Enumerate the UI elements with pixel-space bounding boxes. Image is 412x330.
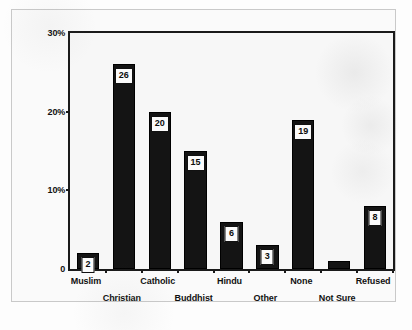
bar-value-label: 2 <box>81 257 94 273</box>
bar-slot: 2 <box>70 33 106 269</box>
x-axis-tick-mark <box>320 269 322 273</box>
x-axis-category-label: Muslim <box>71 276 101 286</box>
bar[interactable]: 2 <box>77 253 99 269</box>
x-axis-tick-mark <box>105 269 107 273</box>
x-axis-category-label: Christian <box>103 293 141 303</box>
bar-slot: 8 <box>357 33 393 269</box>
x-axis-tick-mark <box>213 269 215 273</box>
bar-slot <box>321 33 357 269</box>
bar-slot: 19 <box>285 33 321 269</box>
x-axis-category-label: Not Sure <box>319 293 356 303</box>
bar-value-label: 8 <box>369 210 382 226</box>
x-axis-tick-mark <box>356 269 358 273</box>
x-axis-category-label: Catholic <box>140 276 175 286</box>
figure-outer-frame: 010%20%30%226201563198 MuslimChristianCa… <box>11 9 396 302</box>
x-axis-category-label: Hindu <box>217 276 242 286</box>
x-axis-tick-mark <box>177 269 179 273</box>
bar-value-label: 20 <box>151 116 169 132</box>
bar-slot: 15 <box>178 33 214 269</box>
y-axis-tick-label: 10% <box>48 185 65 195</box>
bar[interactable]: 6 <box>220 222 242 269</box>
bar-value-label: 3 <box>261 249 274 265</box>
y-axis-tick-label: 0 <box>60 264 65 274</box>
bar-slot: 26 <box>106 33 142 269</box>
x-axis-category-label: Refused <box>356 276 391 286</box>
x-axis-tick-mark <box>141 269 143 273</box>
bar[interactable]: 15 <box>184 151 206 269</box>
y-axis-tick-label: 30% <box>48 28 65 38</box>
bar-value-label: 26 <box>115 68 133 84</box>
bar-slot: 6 <box>214 33 250 269</box>
x-axis-tick-mark <box>392 269 394 273</box>
chart-page: 010%20%30%226201563198 MuslimChristianCa… <box>0 0 412 330</box>
bar-slot: 20 <box>142 33 178 269</box>
bar[interactable]: 3 <box>256 245 278 269</box>
plot-area: 010%20%30%226201563198 <box>70 33 393 269</box>
x-axis-category-label: Buddhist <box>175 293 213 303</box>
bar[interactable]: 8 <box>364 206 386 269</box>
bar[interactable]: 26 <box>113 64 135 269</box>
bar-slot: 3 <box>249 33 285 269</box>
bar-value-label: 19 <box>294 124 312 140</box>
bar-value-label: 6 <box>225 226 238 242</box>
x-axis-tick-mark <box>284 269 286 273</box>
bar[interactable]: 20 <box>149 112 171 269</box>
bar-value-label: 15 <box>187 155 205 171</box>
y-axis-tick-label: 20% <box>48 107 65 117</box>
x-axis-tick-mark <box>248 269 250 273</box>
x-axis-category-label: None <box>290 276 312 286</box>
bar[interactable]: 19 <box>292 120 314 269</box>
bar[interactable] <box>328 261 350 269</box>
plot-frame: 010%20%30%226201563198 <box>68 31 395 271</box>
x-axis-category-label: Other <box>254 293 278 303</box>
